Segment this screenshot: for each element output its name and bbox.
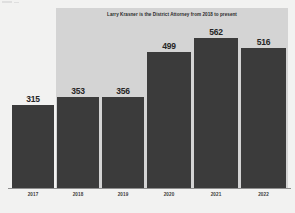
bar-value-2022: 516	[241, 37, 286, 47]
bar-group-2022[interactable]: 516	[241, 0, 286, 189]
x-tick-2022: 2022	[241, 192, 286, 197]
bar-group-2020[interactable]: 499	[147, 0, 191, 189]
x-tick-2017: 2017	[12, 192, 54, 197]
bar-2020[interactable]	[147, 52, 191, 188]
bar-2017[interactable]	[12, 105, 54, 188]
x-tick-2018: 2018	[57, 192, 99, 197]
x-tick-2021: 2021	[194, 192, 238, 197]
bar-value-2021: 562	[194, 27, 238, 37]
bar-value-2017: 315	[12, 94, 54, 104]
bar-value-2018: 353	[57, 86, 99, 96]
bar-group-2018[interactable]: 353	[57, 0, 99, 189]
bar-group-2017[interactable]: 315	[12, 0, 54, 189]
bar-2019[interactable]	[102, 97, 144, 188]
bar-chart: Larry Krasner is the District Attorney f…	[0, 0, 295, 213]
bar-2022[interactable]	[241, 48, 286, 188]
bar-value-2020: 499	[147, 41, 191, 51]
bar-group-2021[interactable]: 562	[194, 0, 238, 189]
x-tick-2020: 2020	[147, 192, 191, 197]
x-tick-2019: 2019	[102, 192, 144, 197]
x-axis-line	[8, 188, 291, 189]
bar-2018[interactable]	[57, 97, 99, 188]
bar-group-2019[interactable]: 356	[102, 0, 144, 189]
plot-area: 315 353 356 499 562 516	[0, 0, 295, 189]
bar-2021[interactable]	[194, 38, 238, 188]
bar-value-2019: 356	[102, 86, 144, 96]
